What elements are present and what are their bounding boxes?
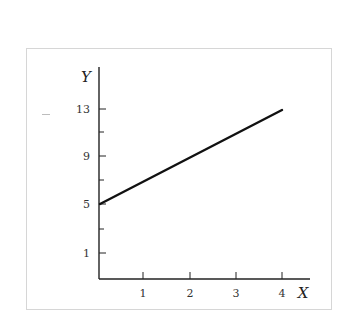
y-ticks <box>99 109 106 253</box>
y-tick-label: 5 <box>83 198 90 211</box>
y-tick-label: 13 <box>76 103 90 116</box>
data-line <box>100 110 282 204</box>
line-chart: 1 5 9 13 1 2 3 4 Y X <box>0 0 354 334</box>
x-tick-label: 2 <box>187 287 194 300</box>
x-ticks <box>143 272 282 279</box>
x-tick-label: 3 <box>233 287 240 300</box>
y-tick-label: 1 <box>83 247 90 260</box>
x-tick-label: 4 <box>279 287 286 300</box>
x-tick-label: 1 <box>140 287 147 300</box>
y-tick-label: 9 <box>83 150 90 163</box>
y-axis-label: Y <box>81 68 93 86</box>
x-axis-label: X <box>297 284 310 302</box>
